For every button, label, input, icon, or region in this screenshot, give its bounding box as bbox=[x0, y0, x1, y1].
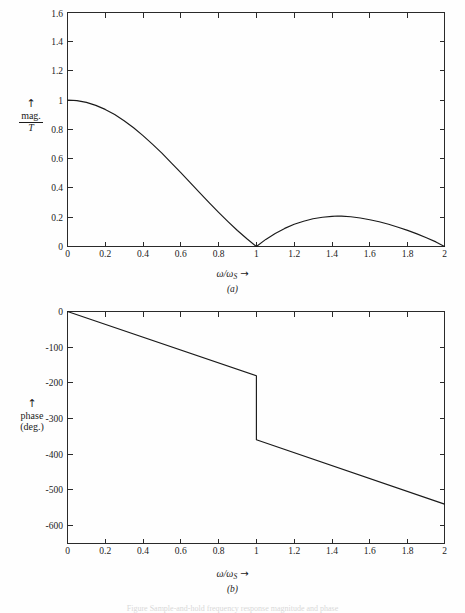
svg-text:-500: -500 bbox=[46, 485, 64, 495]
ylabel-phase: ↑ phase (deg.) bbox=[2, 398, 62, 432]
svg-text:0.2: 0.2 bbox=[99, 249, 111, 259]
y-tickmarks-right-a bbox=[440, 41, 445, 217]
svg-text:0.4: 0.4 bbox=[137, 546, 149, 556]
svg-text:-400: -400 bbox=[46, 450, 64, 460]
mag-over-t-fraction: mag. T bbox=[19, 111, 43, 133]
svg-text:1: 1 bbox=[58, 96, 63, 106]
xlabel-block-a: ω/ωS→ (a) bbox=[0, 268, 465, 294]
x-ticklabels-a: 0 0.2 0.4 0.6 0.8 1 1.2 1.4 1.6 1.8 2 bbox=[65, 249, 447, 259]
ylabel-numerator: mag. bbox=[19, 111, 43, 123]
magnitude-curve bbox=[68, 100, 445, 247]
svg-text:-100: -100 bbox=[46, 343, 64, 353]
panel-letter-b: (b) bbox=[0, 584, 465, 594]
ylabel-phase-line1: phase bbox=[2, 411, 62, 422]
svg-text:0.2: 0.2 bbox=[99, 546, 111, 556]
xlabel-omega-text-b: ω/ω bbox=[216, 568, 233, 579]
xlabel-omega-ratio-a: ω/ωS→ bbox=[216, 268, 248, 279]
svg-text:1.4: 1.4 bbox=[51, 37, 63, 47]
svg-text:0: 0 bbox=[65, 249, 70, 259]
y-tickmarks-a bbox=[68, 13, 73, 247]
svg-text:1.2: 1.2 bbox=[288, 249, 300, 259]
phase-plot-svg: 0 0.2 0.4 0.6 0.8 1 1.2 1.4 1.6 1.8 2 0 … bbox=[0, 300, 465, 613]
y-tickmarks-b bbox=[68, 312, 73, 526]
svg-text:0.4: 0.4 bbox=[137, 249, 149, 259]
svg-text:0: 0 bbox=[65, 546, 70, 556]
up-arrow-icon-b: ↑ bbox=[2, 398, 62, 409]
phase-curve bbox=[68, 312, 445, 505]
ylabel-denominator: T bbox=[19, 123, 43, 134]
ylabel-magnitude: ↑ mag. T bbox=[6, 98, 56, 133]
y-tickmarks-right-b bbox=[440, 347, 445, 525]
svg-text:2: 2 bbox=[442, 249, 447, 259]
xlabel-block-b: ω/ωS→ (b) bbox=[0, 568, 465, 594]
right-arrow-icon-b: → bbox=[237, 568, 248, 579]
svg-text:1: 1 bbox=[254, 546, 259, 556]
x-tickmarks-b bbox=[68, 539, 445, 544]
svg-text:1.2: 1.2 bbox=[51, 66, 63, 76]
svg-text:1: 1 bbox=[254, 249, 259, 259]
svg-text:1.6: 1.6 bbox=[364, 249, 376, 259]
svg-text:1.8: 1.8 bbox=[402, 546, 414, 556]
ylabel-phase-line2: (deg.) bbox=[2, 422, 62, 433]
svg-text:0.6: 0.6 bbox=[175, 546, 187, 556]
up-arrow-icon: ↑ bbox=[6, 98, 56, 109]
x-ticklabels-b: 0 0.2 0.4 0.6 0.8 1 1.2 1.4 1.6 1.8 2 bbox=[65, 546, 447, 556]
svg-text:2: 2 bbox=[442, 546, 447, 556]
figure-sheet: 0 0.2 0.4 0.6 0.8 1 1.2 1.4 1.6 1.8 2 0 … bbox=[0, 0, 465, 613]
xlabel-omega-text-a: ω/ω bbox=[216, 268, 233, 279]
right-arrow-icon-a: → bbox=[237, 268, 248, 279]
magnitude-plot-svg: 0 0.2 0.4 0.6 0.8 1 1.2 1.4 1.6 1.8 2 0 … bbox=[0, 0, 465, 306]
svg-text:0.2: 0.2 bbox=[51, 213, 63, 223]
plot-frame-a bbox=[68, 13, 445, 247]
panel-phase: 0 0.2 0.4 0.6 0.8 1 1.2 1.4 1.6 1.8 2 0 … bbox=[0, 300, 465, 613]
svg-text:0.6: 0.6 bbox=[51, 154, 63, 164]
svg-text:0.6: 0.6 bbox=[175, 249, 187, 259]
svg-text:-600: -600 bbox=[46, 521, 64, 531]
svg-text:0: 0 bbox=[58, 242, 63, 252]
panel-magnitude: 0 0.2 0.4 0.6 0.8 1 1.2 1.4 1.6 1.8 2 0 … bbox=[0, 0, 465, 306]
x-tickmarks-top-b bbox=[105, 312, 407, 317]
svg-text:-200: -200 bbox=[46, 378, 64, 388]
svg-text:0.8: 0.8 bbox=[213, 546, 225, 556]
svg-text:1.2: 1.2 bbox=[288, 546, 300, 556]
svg-text:1.6: 1.6 bbox=[51, 9, 63, 19]
svg-text:1.4: 1.4 bbox=[326, 546, 338, 556]
svg-text:1.8: 1.8 bbox=[402, 249, 414, 259]
x-tickmarks-top-a bbox=[105, 13, 407, 18]
figure-caption: Figure Sample-and-hold frequency respons… bbox=[0, 604, 465, 613]
svg-text:0.8: 0.8 bbox=[213, 249, 225, 259]
svg-text:1.4: 1.4 bbox=[326, 249, 338, 259]
svg-text:1.6: 1.6 bbox=[364, 546, 376, 556]
panel-letter-a: (a) bbox=[0, 284, 465, 294]
svg-text:0.4: 0.4 bbox=[51, 183, 63, 193]
xlabel-omega-ratio-b: ω/ωS→ bbox=[216, 568, 248, 579]
svg-text:0: 0 bbox=[58, 307, 63, 317]
